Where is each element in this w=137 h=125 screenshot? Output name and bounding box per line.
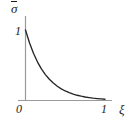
origin-label-0: 0 bbox=[16, 103, 22, 115]
x-axis-label: ξ bbox=[119, 103, 125, 116]
y-axis-tick-1: 1 bbox=[15, 25, 21, 37]
stress-decay-figure: σ ξ 1 0 1 bbox=[0, 0, 137, 125]
y-axis-label: σ bbox=[11, 2, 17, 15]
y-axis-label-text: σ bbox=[11, 2, 17, 15]
x-axis-tick-1: 1 bbox=[101, 103, 107, 115]
decay-curve bbox=[26, 30, 106, 99]
